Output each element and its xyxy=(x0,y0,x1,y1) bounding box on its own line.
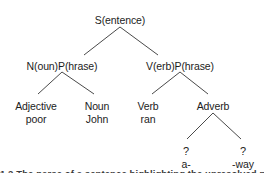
tree-node-label: V(erb)P(hrase) xyxy=(146,60,214,72)
tree-edge-np-to-adjective xyxy=(38,72,62,94)
tree-node-label: Adverb xyxy=(197,100,230,112)
tree-edge-vp-to-adverb xyxy=(180,72,208,94)
parse-tree-figure: S(entence)N(oun)P(hrase)V(erb)P(hrase)Ad… xyxy=(0,0,264,173)
tree-edge-np-to-noun xyxy=(62,72,94,94)
tree-node-affix-a: ?a- xyxy=(181,145,190,170)
tree-node-word: ran xyxy=(137,113,158,125)
figure-caption: 1.2 The parse of a sentence highlighting… xyxy=(0,168,264,173)
tree-node-np: N(oun)P(hrase) xyxy=(27,60,98,72)
tree-edge-s-to-np xyxy=(84,27,120,55)
tree-node-vp: V(erb)P(hrase) xyxy=(146,60,214,72)
tree-node-word: John xyxy=(85,113,110,125)
tree-node-affix-way: ?-way xyxy=(232,145,254,170)
tree-edge-s-to-vp xyxy=(120,27,158,55)
tree-node-label: ? xyxy=(232,145,254,157)
tree-edge-adverb-to-affix-way xyxy=(213,113,241,139)
tree-node-label: Verb xyxy=(137,100,158,112)
tree-node-label: N(oun)P(hrase) xyxy=(27,60,98,72)
tree-node-label: S(entence) xyxy=(95,14,145,26)
tree-node-label: Noun xyxy=(85,100,110,112)
tree-edge-vp-to-verb xyxy=(152,72,180,94)
tree-node-s: S(entence) xyxy=(95,14,145,26)
tree-edge-adverb-to-affix-a xyxy=(187,113,213,139)
tree-node-label: Adjective xyxy=(15,100,57,112)
tree-node-adjective: Adjectivepoor xyxy=(15,100,57,125)
tree-node-adverb: Adverb xyxy=(197,100,230,112)
tree-node-label: ? xyxy=(181,145,190,157)
tree-node-word: poor xyxy=(15,113,57,125)
tree-node-verb: Verbran xyxy=(137,100,158,125)
tree-node-noun: NounJohn xyxy=(85,100,110,125)
